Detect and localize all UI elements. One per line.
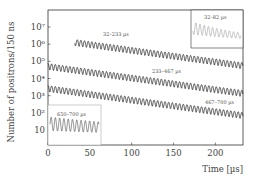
series-line-2: [48, 63, 243, 96]
x-tick-label: 50: [84, 148, 95, 158]
annotation-series-1: 32–233 µs: [103, 31, 129, 38]
annotation-inset-top: 32–82 µs: [204, 14, 227, 21]
y-tick-label: 10⁷: [31, 22, 46, 32]
y-tick-label: 10²: [31, 108, 45, 118]
annotation-inset-bottom: 650–700 µs: [57, 111, 86, 118]
y-tick-label: 10: [34, 125, 45, 135]
y-axis: 1010²10³10⁴10⁵10⁶10⁷: [31, 22, 51, 135]
y-axis-label: Number of positrons/150 ns: [6, 22, 16, 143]
insets-group: [48, 10, 243, 145]
x-tick-label: 150: [165, 148, 181, 158]
x-tick-label: 200: [207, 148, 223, 158]
y-tick-label: 10⁴: [31, 74, 46, 84]
annotation-series-2: 233–467 µs: [152, 68, 181, 75]
x-tick-label: 0: [45, 148, 50, 158]
chart: 050100150200 1010²10³10⁴10⁵10⁶10⁷ Time […: [0, 0, 255, 180]
y-tick-label: 10³: [31, 91, 45, 101]
x-axis-label: Time [µs]: [202, 164, 243, 174]
annotation-series-3: 467–700 µs: [205, 99, 234, 106]
x-tick-label: 100: [124, 148, 140, 158]
y-tick-label: 10⁵: [31, 56, 46, 66]
y-tick-label: 10⁶: [31, 39, 46, 49]
